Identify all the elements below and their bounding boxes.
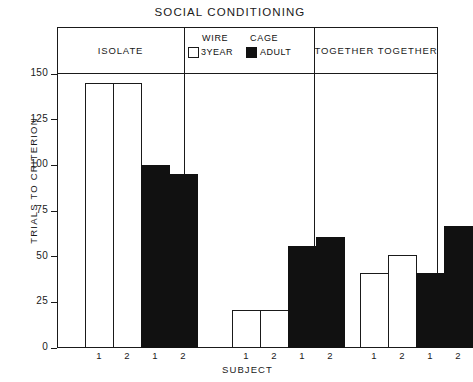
panel-header-isolate: ISOLATE [57,27,184,74]
y-tick-100: 100 [0,165,57,166]
legend-label-adult: ADULT [260,47,291,57]
legend-label-3year: 3YEAR [201,47,233,57]
x-tick-label: 2 [120,350,134,361]
bar [316,237,345,348]
bar [85,83,114,348]
bar [113,83,142,348]
x-tick-label: 1 [295,350,309,361]
y-tick-mark [51,348,57,349]
bar [444,226,473,348]
y-tick-mark [51,256,57,257]
y-tick-75: 75 [0,211,57,212]
y-tick-0: 0 [0,348,57,349]
bar [388,255,417,348]
legend: WIRE CAGE 3YEAR ADULT [188,33,312,69]
y-tick-125: 125 [0,120,57,121]
bar [232,310,261,348]
x-tick-label: 1 [239,350,253,361]
y-tick-25: 25 [0,302,57,303]
chart-title: SOCIAL CONDITIONING [0,6,460,18]
bar [260,310,289,348]
x-tick-label: 2 [323,350,337,361]
x-tick-label: 1 [423,350,437,361]
plot-area [58,74,437,348]
bar [141,165,170,348]
y-tick-label: 0 [42,341,48,352]
y-tick-label: 75 [36,204,48,215]
y-tick-label: 50 [36,250,48,261]
open-square-icon [188,47,199,58]
y-tick-label: 25 [36,295,48,306]
bar [416,273,445,348]
x-tick-label: 1 [92,350,106,361]
y-tick-label: 100 [30,158,48,169]
bar [360,273,389,348]
x-tick-label: 1 [148,350,162,361]
x-tick-label: 2 [451,350,465,361]
x-tick-label: 1 [367,350,381,361]
bar [169,174,198,348]
legend-entries: 3YEAR ADULT [188,45,312,63]
y-tick-mark [51,211,57,212]
y-tick-50: 50 [0,257,57,258]
y-tick-mark [51,119,57,120]
bar [288,246,317,348]
y-axis-label: TRIALS TO CRITERION [28,101,39,261]
x-tick-label: 2 [176,350,190,361]
y-tick-mark [51,74,57,75]
y-tick-150: 150 [0,74,57,75]
y-tick-label: 125 [30,113,48,124]
y-tick-mark [51,165,57,166]
legend-heading-cage: CAGE [250,33,278,43]
x-axis-label: SUBJECT [57,364,438,375]
filled-square-icon [246,47,257,58]
legend-heading-wire: WIRE [202,33,228,43]
y-tick-mark [51,302,57,303]
x-tick-label: 2 [267,350,281,361]
y-tick-label: 150 [30,67,48,78]
x-tick-label: 2 [395,350,409,361]
panel-header-together-together: TOGETHER TOGETHER [314,27,438,74]
